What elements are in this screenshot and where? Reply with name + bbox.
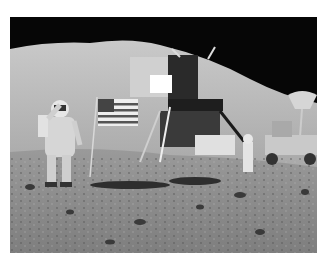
moon-landing-photo: [10, 17, 317, 253]
second-astronaut: [243, 134, 253, 172]
shadow: [90, 181, 170, 189]
shadow: [169, 177, 221, 185]
